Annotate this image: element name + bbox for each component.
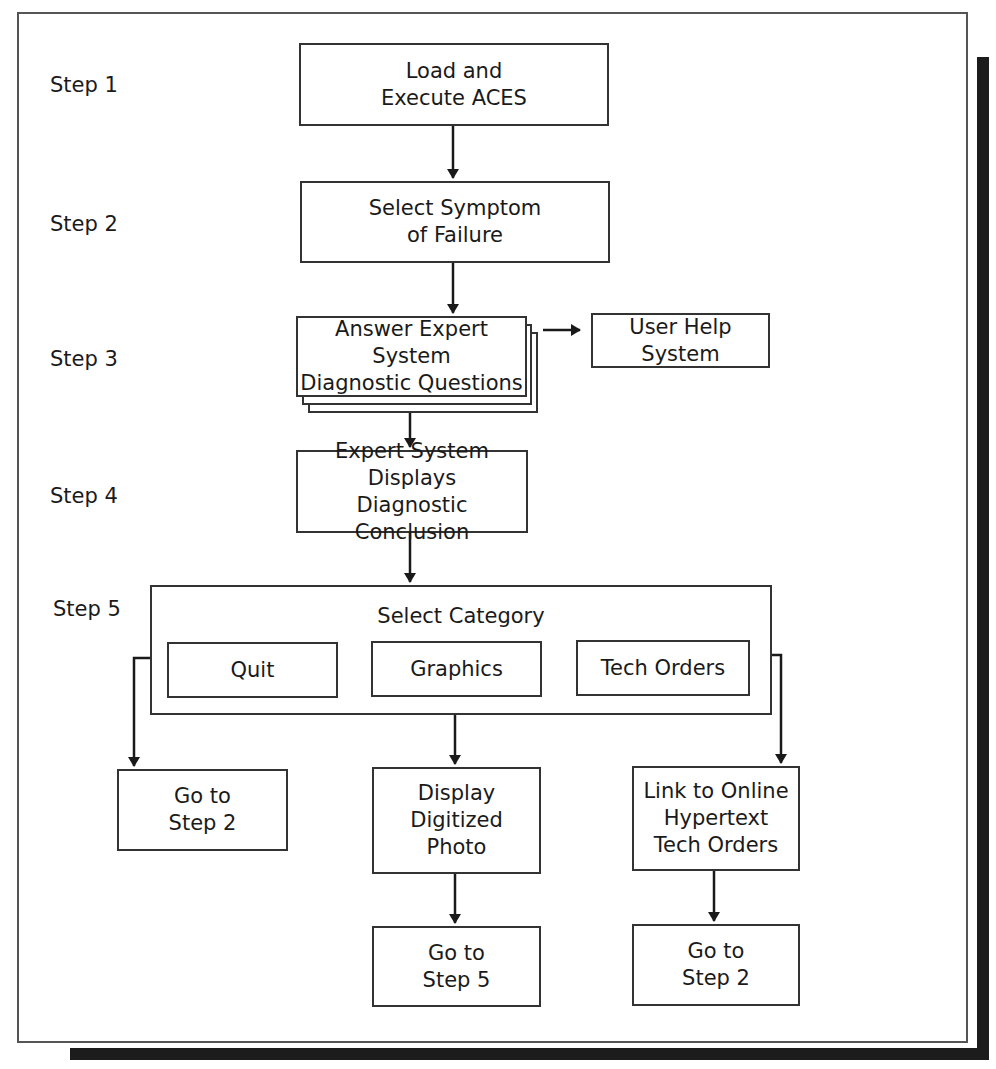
arrow-quit-to-goto2 <box>134 658 150 766</box>
arrow-techorders-to-link <box>772 655 781 763</box>
connector-arrows <box>0 0 996 1069</box>
